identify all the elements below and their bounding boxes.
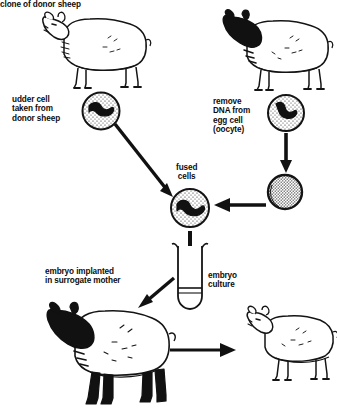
cloning-diagram: udder cell taken from donor sheep remove… (0, 0, 337, 413)
arrow-surrogate-to-clone (170, 343, 236, 357)
oocyte-cell (268, 95, 304, 131)
donor-sheep (43, 12, 151, 88)
surrogate-mother-sheep (47, 302, 175, 404)
label-clone-of-donor-sheep: clone of donor sheep (0, 0, 81, 9)
label-embryo-culture: embryo culture (208, 271, 237, 290)
label-embryo-implanted: embryo implanted in surrogate mother (45, 267, 120, 286)
arrow-udder-to-fused (115, 124, 173, 197)
fused-cell (171, 189, 209, 227)
clone-lamb (247, 306, 337, 380)
label-fused-cells: fused cells (176, 163, 197, 182)
enucleated-egg (268, 175, 302, 209)
arrow-tube-to-surrogate (138, 278, 174, 308)
diagram-artwork (0, 0, 337, 413)
udder-cell (83, 93, 120, 130)
egg-donor-sheep (223, 10, 333, 90)
label-remove-dna: remove DNA from egg cell (oocyte) (213, 97, 250, 135)
arrow-oocyte-to-enucleated (280, 133, 292, 173)
embryo-culture-test-tube (172, 244, 208, 309)
label-udder-cell: udder cell taken from donor sheep (12, 95, 60, 123)
arrow-enucleated-to-fused (214, 198, 266, 212)
